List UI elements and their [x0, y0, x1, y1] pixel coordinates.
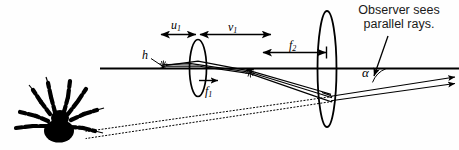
observer-note-line-1: Observer sees	[358, 3, 439, 17]
observer-callout-pointer	[374, 36, 388, 76]
label-object-height-h: h	[142, 49, 148, 62]
dotted-virtual-image-rays	[86, 97, 332, 139]
observer-note-line-2: parallel rays.	[364, 17, 435, 31]
spider-silhouette	[16, 77, 104, 143]
label-f2: f2	[289, 39, 296, 54]
optics-diagram-figure: u1 v1 f1 f2 h α Observer seesparallel ra…	[0, 0, 459, 150]
h-leader-line	[151, 59, 163, 67]
label-angle-alpha: α	[362, 66, 369, 81]
label-v1: v1	[228, 21, 237, 36]
label-f1: f1	[205, 85, 212, 100]
observer-note: Observer seesparallel rays.	[340, 3, 458, 31]
label-u1: u1	[171, 19, 181, 34]
